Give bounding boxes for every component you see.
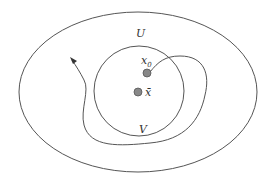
label-x-bar: x̄ xyxy=(145,86,152,99)
neighborhood-diagram: U V x0 x̄ xyxy=(0,0,273,183)
label-x0: x0 xyxy=(141,54,152,69)
label-x0-subscript: 0 xyxy=(147,61,152,69)
point-x-bar xyxy=(134,88,142,96)
label-V: V xyxy=(139,123,148,136)
label-U: U xyxy=(136,27,146,40)
arrowhead-icon xyxy=(70,57,77,64)
point-x0 xyxy=(143,69,151,77)
